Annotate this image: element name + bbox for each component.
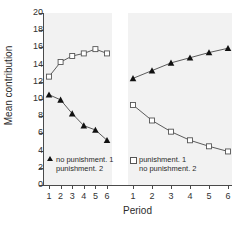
series-punishment-1 — [47, 47, 110, 80]
data-point-marker — [207, 144, 212, 149]
data-point-marker — [92, 127, 99, 133]
legend-label-no-punishment-1: no punishment. 1 — [56, 155, 114, 164]
data-point-marker — [188, 138, 193, 143]
series-no-punishment-1 — [46, 91, 111, 143]
data-point-marker — [57, 97, 64, 103]
data-point-marker — [169, 129, 174, 134]
chart-figure: 20181614121086420 123456123456 Mean cont… — [0, 0, 241, 225]
data-point-marker — [130, 75, 137, 81]
data-point-marker — [226, 149, 231, 154]
series-punishment-2 — [130, 45, 232, 81]
data-point-marker — [105, 51, 110, 56]
legend-filled-triangle-icon — [47, 155, 56, 161]
data-point-marker — [149, 67, 156, 73]
data-point-marker — [46, 91, 53, 97]
data-point-marker — [225, 45, 232, 51]
series-no-punishment-2 — [131, 103, 231, 154]
legend-label-no-punishment-2: no punishment. 2 — [139, 164, 197, 173]
legend-label-punishment-2: punishment. 2 — [56, 164, 114, 173]
data-point-marker — [81, 51, 86, 56]
legend-group-triangle: no punishment. 1 punishment. 2 — [47, 155, 114, 173]
data-point-marker — [93, 47, 98, 52]
data-point-marker — [150, 118, 155, 123]
legend-open-square-icon — [130, 155, 139, 164]
chart-data-layer — [0, 0, 241, 225]
data-point-marker — [58, 60, 63, 65]
legend-label-punishment-1: punishment. 1 — [139, 155, 197, 164]
data-point-marker — [70, 54, 75, 59]
legend-group-square: punishment. 1 no punishment. 2 — [130, 155, 197, 173]
data-point-marker — [131, 103, 136, 108]
data-point-marker — [47, 74, 52, 79]
